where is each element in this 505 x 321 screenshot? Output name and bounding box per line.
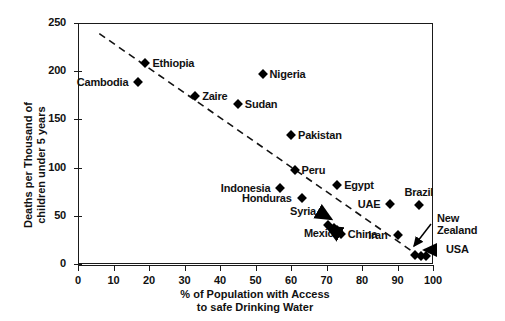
data-point-label-nigeria: Nigeria bbox=[270, 68, 306, 80]
x-tick-label: 100 bbox=[424, 274, 442, 286]
x-tick-label: 60 bbox=[285, 274, 297, 286]
x-tick-label: 10 bbox=[108, 274, 120, 286]
x-tick-label: 30 bbox=[179, 274, 191, 286]
y-tick-label: 0 bbox=[60, 257, 66, 269]
y-tick-mark bbox=[74, 119, 82, 120]
data-point-label-peru: Peru bbox=[302, 164, 326, 176]
data-point-label-uae: UAE bbox=[358, 198, 381, 210]
data-point-label-sudan: Sudan bbox=[245, 98, 278, 110]
y-tick-mark bbox=[74, 216, 82, 217]
y-tick-label: 200 bbox=[48, 64, 66, 76]
x-tick-mark bbox=[433, 265, 434, 271]
data-point-label-usa: USA bbox=[446, 243, 469, 255]
y-tick-label: 150 bbox=[48, 112, 66, 124]
y-axis-title-line2: children under 5 years bbox=[35, 106, 47, 223]
y-tick-label: 100 bbox=[48, 161, 66, 173]
new-zealand-line1: New bbox=[437, 212, 459, 224]
x-tick-label: 90 bbox=[392, 274, 404, 286]
data-point-label-egypt: Egypt bbox=[344, 179, 374, 191]
x-axis-title-line1: % of Population with Access bbox=[180, 288, 329, 300]
data-point-label-new-zealand: NewZealand bbox=[437, 212, 477, 236]
data-point-label-mexico: Mexico bbox=[304, 227, 340, 239]
x-axis-line bbox=[78, 265, 433, 266]
y-tick-label: 250 bbox=[48, 16, 66, 28]
data-point-label-cambodia: Cambodia bbox=[77, 76, 129, 88]
x-tick-label: 40 bbox=[214, 274, 226, 286]
x-tick-label: 70 bbox=[321, 274, 333, 286]
plot-area bbox=[78, 23, 433, 264]
x-axis-title-line2: to safe Drinking Water bbox=[197, 301, 313, 313]
data-point-label-ethiopia: Ethiopia bbox=[152, 57, 194, 69]
chart-canvas: Deaths per Thousand of children under 5 … bbox=[0, 0, 505, 321]
data-point-label-zaire: Zaire bbox=[202, 90, 227, 102]
x-tick-label: 0 bbox=[75, 274, 81, 286]
x-tick-label: 50 bbox=[250, 274, 262, 286]
data-point-label-iran: Iran bbox=[368, 229, 387, 241]
new-zealand-line2: Zealand bbox=[437, 224, 477, 236]
data-point-label-honduras: Honduras bbox=[242, 192, 292, 204]
y-tick-label: 50 bbox=[54, 209, 66, 221]
x-tick-label: 80 bbox=[356, 274, 368, 286]
data-point-label-pakistan: Pakistan bbox=[298, 129, 342, 141]
y-tick-mark bbox=[74, 23, 82, 24]
data-point-label-syria: Syria bbox=[290, 205, 316, 217]
y-axis-title-line1: Deaths per Thousand of bbox=[22, 102, 34, 228]
y-axis-title: Deaths per Thousand of children under 5 … bbox=[22, 102, 48, 228]
y-tick-mark bbox=[74, 71, 82, 72]
y-tick-mark bbox=[74, 168, 82, 169]
x-tick-label: 20 bbox=[143, 274, 155, 286]
data-point-label-brazil: Brazil bbox=[404, 186, 433, 198]
x-axis-title: % of Population with Access to safe Drin… bbox=[155, 288, 355, 314]
